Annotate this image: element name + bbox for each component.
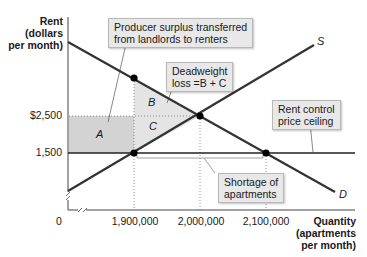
x-tick-2000000: 2,000,000 [175,215,227,227]
callout-shortage: Shortage of apartments [218,173,284,203]
y-tick-2500: $2,500 [28,109,62,121]
callout-deadweight-line1: Deadweight [172,65,227,77]
x-axis-title: Quantity (apartments per month) [290,215,356,251]
x-axis-break-icon [78,208,87,212]
x-tick-origin: 0 [56,215,62,227]
y-tick-1500: 1,500 [28,146,62,158]
y-title-line1: Rent [0,15,63,27]
y-title-line3: per month) [0,39,63,51]
point-equilibrium [196,112,203,119]
callout-deadweight-line2: loss =B + C [172,77,227,89]
x-tick-1900000: 1,900,000 [109,215,161,227]
callout-producer-surplus-line1: Producer surplus transferred [114,21,247,33]
area-a-label: A [96,128,103,140]
x-tick-2100000: 2,100,000 [240,215,292,227]
x-title-line1: Quantity [290,215,356,227]
area-c [134,116,200,153]
callout-shortage-line2: apartments [224,188,278,200]
callout-producer-surplus-line2: from landlords to renters [114,33,247,45]
x-title-line3: per month) [290,239,356,251]
callout-ceiling-line1: Rent control [278,103,335,115]
supply-label: S [317,35,324,47]
point-demand-ceiling [262,149,269,156]
point-supply-ceiling [130,149,137,156]
point-demand-1900000 [130,74,137,81]
callout-ceiling-line2: price ceiling [278,115,335,127]
leader-producer-surplus [108,44,126,122]
area-c-label: C [149,120,157,132]
callout-producer-surplus: Producer surplus transferred from landlo… [108,18,253,48]
area-b-label: B [148,96,155,108]
x-title-line2: (apartments [290,227,356,239]
demand-label: D [339,188,347,200]
y-axis-break-icon [66,192,70,200]
y-title-line2: (dollars [0,27,63,39]
y-axis-title: Rent (dollars per month) [0,15,63,51]
callout-shortage-line1: Shortage of [224,176,278,188]
callout-deadweight-loss: Deadweight loss =B + C [166,62,233,92]
callout-price-ceiling: Rent control price ceiling [272,100,341,130]
